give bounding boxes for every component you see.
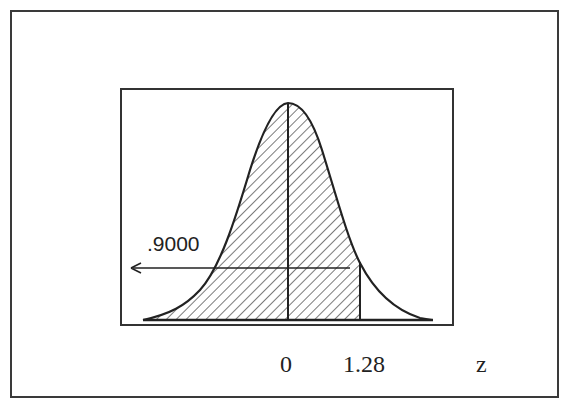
area-label: .9000 bbox=[147, 233, 200, 254]
tick-label-cutoff: 1.28 bbox=[343, 352, 385, 376]
normal-curve-plot bbox=[0, 0, 572, 406]
shaded-area bbox=[143, 103, 360, 320]
axis-name-z: z bbox=[476, 352, 487, 376]
tick-label-zero: 0 bbox=[280, 352, 292, 376]
